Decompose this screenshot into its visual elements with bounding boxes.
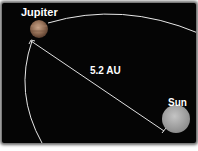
sun-star — [162, 105, 190, 133]
orbit-path — [48, 14, 196, 33]
jupiter-label: Jupiter — [21, 6, 58, 18]
distance-label: 5.2 AU — [90, 65, 121, 76]
sun-label: Sun — [168, 97, 187, 108]
orbit-path-left — [25, 41, 42, 143]
distance-line — [31, 41, 164, 131]
diagram-panel: Jupiter Sun 5.2 AU — [2, 3, 196, 143]
jupiter-planet — [30, 20, 48, 38]
